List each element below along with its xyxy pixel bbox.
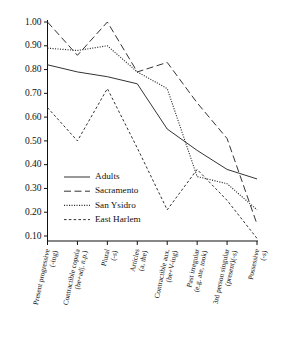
series-lines <box>48 22 258 238</box>
x-axis-labels: Present progressive(-ing)Contractible co… <box>31 247 269 307</box>
legend-item-sacramento: Sacramento <box>64 185 139 195</box>
chart-canvas: 1.000.900.800.700.600.500.400.300.200.10… <box>0 0 285 348</box>
series-line-east-harlem <box>48 89 258 239</box>
x-axis-label-line: (-s) <box>258 249 269 261</box>
y-axis-tick-label: 0.10 <box>25 231 42 241</box>
series-line-sacramento <box>48 22 258 224</box>
series-line-adults <box>48 65 258 179</box>
x-axis-label-group: Articles(a, the) <box>128 247 150 274</box>
legend-label: Adults <box>95 171 120 181</box>
y-axis-tick-label: 0.30 <box>25 183 42 193</box>
y-axis-tick-label: 0.20 <box>25 207 42 217</box>
x-axis-label-group: Past irregular(e.g. ate, took) <box>184 247 210 293</box>
legend-label: San Ysidro <box>95 200 136 210</box>
y-axis-tick-label: 0.60 <box>25 112 42 122</box>
legend-item-east-harlem: East Harlem <box>64 214 141 224</box>
x-axis-label-line: (-s) <box>108 249 119 261</box>
y-axis-tick-label: 1.00 <box>25 17 42 27</box>
x-axis-label-group: Possessive(-s) <box>246 247 269 282</box>
legend-item-adults: Adults <box>64 171 120 181</box>
x-axis-label-group: Contractible aux.(be+V-ing) <box>152 247 179 300</box>
line-chart: 1.000.900.800.700.600.500.400.300.200.10… <box>0 0 285 348</box>
y-axis-tick-label: 0.70 <box>25 88 42 98</box>
legend-item-san-ysidro: San Ysidro <box>64 200 136 210</box>
y-axis-tick-label: 0.80 <box>25 64 42 74</box>
x-axis-label-group: Plural(-s) <box>99 247 119 268</box>
x-axis <box>48 241 259 245</box>
y-axis: 1.000.900.800.700.600.500.400.300.200.10 <box>25 17 48 241</box>
legend-label: East Harlem <box>95 214 141 224</box>
x-axis-label-group: Present progressive(-ing) <box>31 247 60 307</box>
x-axis-label-group: 3rd person singular(present)(-s) <box>211 247 239 306</box>
series-line-san-ysidro <box>48 46 258 210</box>
y-axis-tick-label: 0.50 <box>25 136 42 146</box>
y-axis-tick-label: 0.40 <box>25 159 42 169</box>
x-axis-label-group: Contractible copula(be+adj. n.p.) <box>61 247 90 307</box>
chart-legend: AdultsSacramentoSan YsidroEast Harlem <box>64 171 141 224</box>
legend-label: Sacramento <box>95 185 139 195</box>
y-axis-tick-label: 0.90 <box>25 40 42 50</box>
